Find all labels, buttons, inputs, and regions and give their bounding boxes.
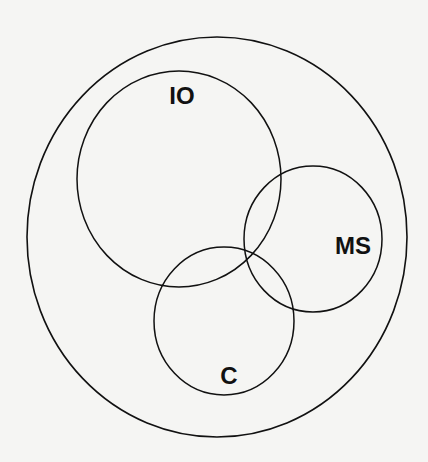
set-c-label: C: [220, 362, 237, 389]
set-io-label: IO: [169, 82, 194, 109]
diagram-svg: IO MS C: [0, 0, 428, 462]
venn-diagram: IO MS C: [0, 0, 428, 462]
set-ms-label: MS: [335, 232, 371, 259]
